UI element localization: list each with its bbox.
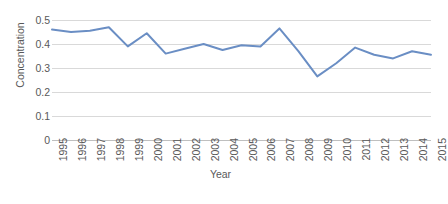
x-tick-label: 2004 bbox=[228, 138, 240, 172]
x-tick-label: 2010 bbox=[341, 138, 353, 172]
x-tick-label: 1999 bbox=[133, 138, 145, 172]
x-tick-label: 2013 bbox=[398, 138, 410, 172]
plot-area bbox=[52, 20, 431, 140]
series-line-concentration bbox=[52, 20, 431, 140]
y-tick-label: 0.5 bbox=[18, 15, 50, 25]
x-tick-label: 2014 bbox=[417, 138, 429, 172]
x-tick-label: 2003 bbox=[209, 138, 221, 172]
x-tick-label: 2006 bbox=[265, 138, 277, 172]
x-tick-label: 1996 bbox=[76, 138, 88, 172]
x-tick-label: 2007 bbox=[284, 138, 296, 172]
x-tick-label: 2008 bbox=[303, 138, 315, 172]
y-tick-label: 0.1 bbox=[18, 111, 50, 121]
x-tick-label: 2009 bbox=[322, 138, 334, 172]
x-tick-label: 1997 bbox=[95, 138, 107, 172]
x-tick-label: 1998 bbox=[114, 138, 126, 172]
x-tick-label: 2011 bbox=[360, 138, 372, 172]
x-tick-label: 2015 bbox=[436, 138, 448, 172]
y-tick-label: 0.4 bbox=[18, 39, 50, 49]
y-tick-label: 0 bbox=[18, 135, 50, 145]
x-tick-label: 2000 bbox=[152, 138, 164, 172]
x-tick-label: 2005 bbox=[247, 138, 259, 172]
y-tick-label: 0.2 bbox=[18, 87, 50, 97]
x-tick-label: 2002 bbox=[190, 138, 202, 172]
x-axis-title: Year bbox=[0, 168, 441, 180]
x-tick-label: 1995 bbox=[57, 138, 69, 172]
y-tick-label: 0.3 bbox=[18, 63, 50, 73]
x-tick-label: 2001 bbox=[171, 138, 183, 172]
x-tick-label: 2012 bbox=[379, 138, 391, 172]
